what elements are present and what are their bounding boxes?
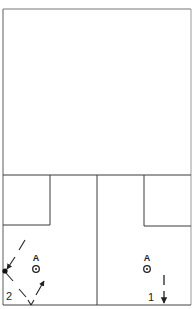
step-label-2: 2 (6, 290, 12, 302)
pass-arrow-in (7, 257, 15, 269)
court-diagram: A 2 A 1 (0, 0, 192, 309)
player-a-label-right: A (144, 253, 151, 263)
ball-dot (2, 268, 7, 273)
cut-line-d (31, 300, 34, 305)
cut-line-b (19, 289, 26, 297)
right-court-play: A 1 (144, 253, 164, 303)
left-key-box (3, 175, 50, 225)
pass-line-in (19, 240, 25, 250)
left-court-play: A 2 (2, 240, 44, 305)
right-key-box (144, 175, 191, 226)
step-label-1: 1 (148, 291, 154, 303)
cut-line-c (28, 300, 31, 305)
cut-arrow-up (36, 281, 44, 295)
cut-line-a (6, 273, 13, 281)
player-a-marker-left (33, 266, 40, 273)
player-a-label-left: A (33, 253, 40, 263)
player-a-marker-right (144, 266, 151, 273)
